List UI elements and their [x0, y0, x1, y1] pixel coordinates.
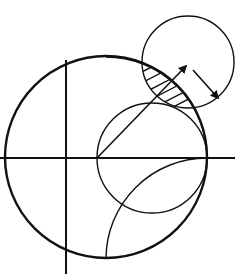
smith-chart-diagram: Smith chart with stability circle and un… [0, 0, 235, 274]
radial-arrow [97, 66, 186, 158]
stability-circle [142, 16, 234, 108]
diagram-canvas [0, 0, 235, 274]
radius-arrow [193, 70, 218, 98]
